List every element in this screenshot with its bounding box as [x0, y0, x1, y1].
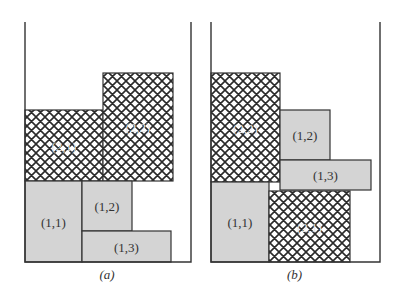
block-1-1: (1,1)	[211, 182, 269, 262]
panel-caption: (b)	[287, 267, 302, 282]
panel-caption: (a)	[99, 267, 114, 282]
panel-b: (2,2)(1,2)(1,3)(1,1)(2,1)(b)	[211, 22, 380, 282]
block-label: (1,3)	[313, 168, 338, 183]
block-label: (1,1)	[228, 215, 253, 230]
block-label: (2,1)	[297, 220, 322, 235]
block-1-3: (1,3)	[82, 231, 171, 262]
block-2-1: (2,1)	[269, 191, 350, 262]
block-1-2: (1,2)	[82, 181, 132, 231]
block-label: (1,3)	[114, 240, 139, 255]
block-2-2: (2,2)	[211, 73, 280, 182]
packing-diagram: (2,1)(2,2)(1,1)(1,2)(1,3)(a)(2,2)(1,2)(1…	[0, 0, 400, 300]
block-1-2: (1,2)	[280, 110, 330, 160]
block-2-2: (2,2)	[103, 73, 173, 181]
block-label: (2,1)	[52, 139, 77, 154]
block-label: (2,2)	[126, 120, 151, 135]
block-label: (2,2)	[233, 121, 258, 136]
block-label: (1,2)	[95, 199, 120, 214]
block-2-1: (2,1)	[25, 110, 103, 181]
panel-a: (2,1)(2,2)(1,1)(1,2)(1,3)(a)	[25, 22, 191, 282]
block-label: (1,1)	[41, 215, 66, 230]
block-1-1: (1,1)	[25, 181, 82, 262]
block-label: (1,2)	[293, 128, 318, 143]
block-1-3: (1,3)	[280, 160, 371, 190]
